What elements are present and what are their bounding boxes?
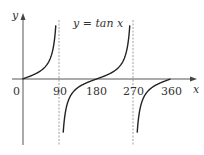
tan-chart: y x 0 90 180 270 360 y = tan x <box>0 0 204 155</box>
y-axis-label: y <box>11 9 19 22</box>
x-axis-label: x <box>193 83 200 96</box>
origin-label: 0 <box>13 85 20 98</box>
chart-title: y = tan x <box>72 17 124 30</box>
x-tick-90: 90 <box>53 85 67 98</box>
tan-branch-1 <box>23 25 56 79</box>
x-tick-180: 180 <box>86 85 107 98</box>
x-tick-270: 270 <box>123 85 144 98</box>
x-tick-360: 360 <box>161 85 182 98</box>
x-axis-arrow-icon <box>190 77 197 82</box>
y-axis-arrow-icon <box>21 13 26 20</box>
